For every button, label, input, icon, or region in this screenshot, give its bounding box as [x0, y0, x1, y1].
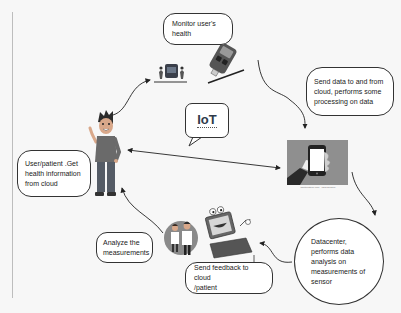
node-text-line: Datacenter, [311, 237, 365, 247]
arrow-phone-to-datacenter [352, 172, 375, 215]
node-analyze-measurements: Analyze the measurements [96, 232, 153, 263]
node-text-line: health information [25, 169, 81, 179]
node-text-line: Send data to and from [314, 77, 383, 87]
node-text-line: from cloud [25, 179, 81, 189]
node-user-patient: User/patient .Get health information fro… [17, 150, 91, 197]
node-send-data: Send data to and from cloud, performs so… [306, 67, 394, 116]
node-text-line: cloud, performs some [314, 87, 383, 97]
node-text-line: health [172, 29, 216, 39]
node-text-line: performs data [311, 247, 365, 257]
laptop-character-icon [203, 205, 252, 258]
node-text-line: measurements of [311, 267, 365, 277]
smartphone-in-hand-icon [287, 140, 348, 185]
doctors-icon [164, 221, 198, 255]
medical-sensor-icon [154, 64, 187, 82]
node-text-line: processing on data [314, 97, 383, 107]
node-monitor-health: Monitor user's health [163, 13, 233, 45]
arrow-datacenter-to-laptop [260, 243, 292, 262]
node-text-line: analysis on [311, 257, 365, 267]
node-text-line: Send feedback to cloud [194, 263, 264, 283]
iot-bubble-tail [189, 137, 202, 146]
node-send-feedback: Send feedback to cloud /patient [185, 262, 273, 294]
node-text-line: measurements [103, 248, 149, 258]
node-text-line: User/patient .Get [25, 159, 81, 169]
arrow-glucometer-to-phone [258, 60, 305, 128]
arrow-doctors-to-user [122, 188, 163, 233]
node-text-line: sensor [311, 277, 365, 287]
glucometer-icon [206, 42, 244, 83]
iot-label: IoT [197, 113, 217, 128]
phone-image-caption: shutterstock.com · 1234567890 [290, 186, 346, 189]
iot-label-bubble: IoT [185, 103, 229, 138]
node-datacenter: Datacenter, performs data analysis on me… [294, 218, 384, 305]
node-text-line: /patient [194, 283, 264, 293]
node-text-line: Analyze the [103, 238, 149, 248]
person-waving-icon [90, 110, 119, 196]
arrow-user-to-sensor [113, 80, 150, 115]
arrow-user-phone-bidirectional [128, 150, 280, 168]
node-text-line: Monitor user's [172, 19, 216, 29]
